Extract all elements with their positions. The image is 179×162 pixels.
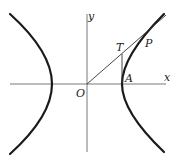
hyperbola-diagram: y x O T P A	[0, 0, 179, 162]
x-axis-label: x	[164, 71, 171, 84]
point-P-label: P	[144, 37, 153, 50]
y-axis-label: y	[87, 10, 95, 23]
origin-label: O	[76, 87, 85, 100]
point-A-label: A	[124, 72, 133, 85]
